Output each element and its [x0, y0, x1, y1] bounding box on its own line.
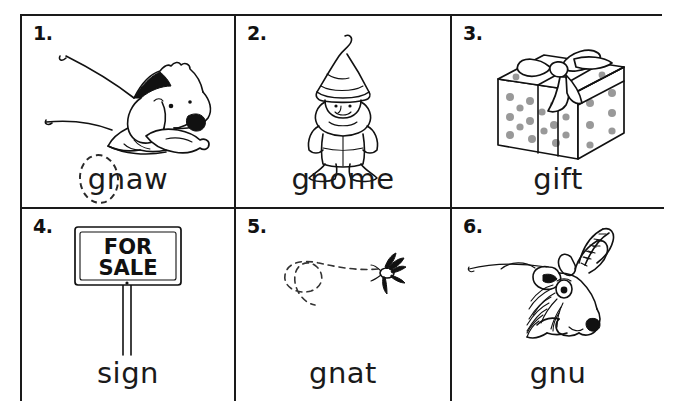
- word-label-2: gnome: [291, 165, 394, 194]
- worksheet-cell-6[interactable]: 6.: [452, 209, 664, 401]
- sign-text-line-2: SALE: [98, 256, 157, 280]
- word-label-6: gnu: [530, 359, 587, 388]
- worksheet-grid: 1.: [20, 14, 662, 401]
- word-label-wrap-2: gnome: [236, 159, 450, 199]
- worksheet-cell-4[interactable]: 4. FOR SALE sign: [22, 209, 236, 401]
- word-label-1: gnaw: [88, 165, 168, 194]
- word-label-wrap-6: gnu: [452, 353, 664, 393]
- word-label-wrap-1: gnaw: [22, 159, 234, 199]
- word-label-wrap-4: sign: [22, 353, 234, 393]
- word-label-4: sign: [97, 359, 159, 388]
- worksheet-cell-1[interactable]: 1.: [22, 16, 236, 209]
- word-label-wrap-5: gnat: [236, 353, 450, 393]
- flying-gnat-with-dashed-path-icon: [236, 223, 450, 363]
- word-label-wrap-3: gift: [452, 159, 664, 199]
- for-sale-sign-icon: FOR SALE: [22, 223, 234, 363]
- dog-chewing-bone-icon: [22, 30, 234, 170]
- gift-box-with-bow-icon: [452, 30, 664, 170]
- garden-gnome-icon: [236, 30, 450, 170]
- word-label-5: gnat: [309, 359, 377, 388]
- worksheet-cell-3[interactable]: 3.: [452, 16, 664, 209]
- word-label-3: gift: [533, 165, 583, 194]
- worksheet-cell-2[interactable]: 2.: [236, 16, 452, 209]
- gnu-wildebeest-head-icon: [452, 223, 664, 363]
- worksheet-cell-5[interactable]: 5. gnat: [236, 209, 452, 401]
